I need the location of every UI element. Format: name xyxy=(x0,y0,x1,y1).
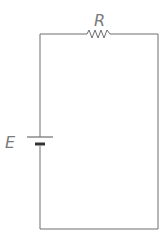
battery-label: E xyxy=(5,133,16,152)
resistor-label: R xyxy=(94,11,105,30)
circuit-diagram: R E xyxy=(0,0,162,235)
wire-main-loop xyxy=(40,34,158,229)
wire-top-left xyxy=(40,34,87,137)
resistor-symbol xyxy=(87,30,110,38)
